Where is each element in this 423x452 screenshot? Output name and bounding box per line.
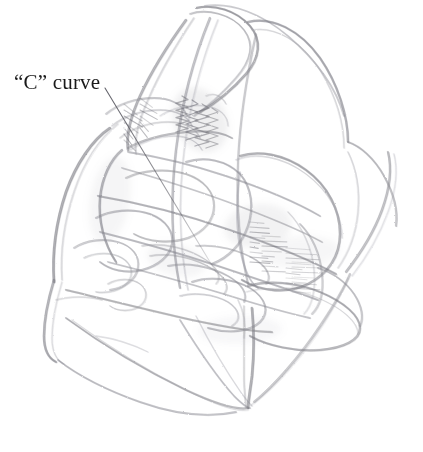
sketch-page: “C” curve [0, 0, 423, 452]
annotation-label-c-curve: “C” curve [14, 70, 100, 95]
pencil-sketch-drawing [0, 0, 423, 452]
